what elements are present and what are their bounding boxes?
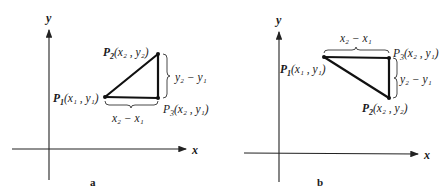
point-p2 bbox=[387, 96, 391, 100]
panel-caption: b bbox=[317, 176, 323, 188]
distance-formula-figure: y x P2(x₂ , y₂) P1(x₁ , y₁) P3(x₂ , y₁) … bbox=[0, 0, 448, 196]
label-p2: P2(x₂ , y₂) bbox=[362, 102, 408, 117]
panel-a: y x P2(x₂ , y₂) P1(x₁ , y₁) P3(x₂ , y₁) … bbox=[12, 11, 209, 188]
y-axis-label: y bbox=[274, 13, 282, 27]
brace-vertical bbox=[393, 58, 397, 98]
point-p3 bbox=[156, 96, 160, 100]
x-axis-label: x bbox=[191, 143, 198, 157]
panel-b: y x P1(x₁ , y₁) P3(x₂ , y₁) P2(x₂ , y₂) … bbox=[244, 13, 439, 188]
y-axis-label: y bbox=[44, 11, 52, 25]
label-p3: P3(x₂ , y₁) bbox=[162, 103, 209, 118]
panel-caption: a bbox=[90, 176, 96, 188]
point-p1 bbox=[103, 95, 107, 99]
label-p2: P2(x₂ , y₂) bbox=[103, 46, 149, 61]
point-p2 bbox=[156, 52, 160, 56]
label-vertical-distance: y₂ − y₁ bbox=[174, 71, 207, 84]
label-p1: P1(x₁ , y₁) bbox=[53, 92, 99, 107]
segment-p1-p3 bbox=[105, 97, 158, 98]
segment-p1-p3 bbox=[324, 57, 389, 58]
x-axis-label: x bbox=[423, 148, 430, 162]
label-p1: P1(x₁ , y₁) bbox=[280, 63, 326, 78]
segment-p1-p2 bbox=[324, 57, 389, 98]
label-vertical-distance: y₂ − y₁ bbox=[399, 73, 432, 86]
label-horizontal-distance: x₂ − x₁ bbox=[111, 112, 144, 124]
brace-vertical bbox=[163, 54, 170, 98]
point-p1 bbox=[322, 55, 326, 59]
label-p3: P3(x₂ , y₁) bbox=[392, 47, 439, 62]
brace-horizontal bbox=[105, 101, 158, 108]
x-axis bbox=[244, 153, 418, 154]
point-p3 bbox=[387, 56, 391, 60]
brace-horizontal bbox=[324, 47, 389, 53]
label-horizontal-distance: x₂ − x₁ bbox=[339, 32, 372, 44]
